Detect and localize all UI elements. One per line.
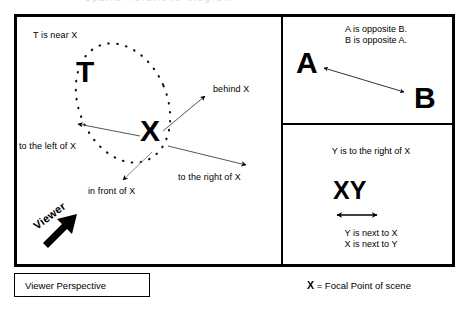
panel-horizontal-divider (281, 123, 455, 125)
label-in-front-of-x: in front of X (88, 186, 135, 197)
viewer-perspective-caption-box: Viewer Perspective (14, 273, 150, 297)
label-behind-x: behind X (213, 84, 249, 95)
letter-a: A (296, 48, 317, 78)
letter-b: B (414, 83, 435, 113)
label-x-is-next-to-y: X is next to Y (291, 239, 451, 251)
label-viewer-perspective: Viewer Perspective (25, 280, 106, 291)
panel-vertical-divider (281, 14, 283, 267)
diagram-canvas: spatial relations diagram T is near X T … (0, 0, 467, 312)
focal-point-caption: X = Focal Point of scene (307, 279, 411, 291)
label-to-the-left-of-x: to the left of X (19, 141, 76, 152)
scan-artifact-strip: spatial relations diagram (0, 0, 467, 6)
letter-t: T (76, 57, 94, 87)
scan-artifact-text: spatial relations diagram (86, 0, 233, 3)
letter-x-focal: X (140, 116, 160, 146)
letters-xy: XY (333, 178, 366, 203)
label-y-is-to-the-right-of-x: Y is to the right of X (291, 146, 451, 158)
label-b-is-opposite-a: B is opposite A. (301, 35, 451, 47)
label-t-is-near-x: T is near X (33, 30, 77, 41)
focal-point-letter: X (307, 279, 314, 291)
label-to-the-right-of-x: to the right of X (178, 172, 241, 183)
label-y-is-next-to-x: Y is next to X (291, 228, 451, 240)
label-a-is-opposite-b: A is opposite B. (301, 24, 451, 36)
focal-point-text: = Focal Point of scene (314, 280, 411, 291)
